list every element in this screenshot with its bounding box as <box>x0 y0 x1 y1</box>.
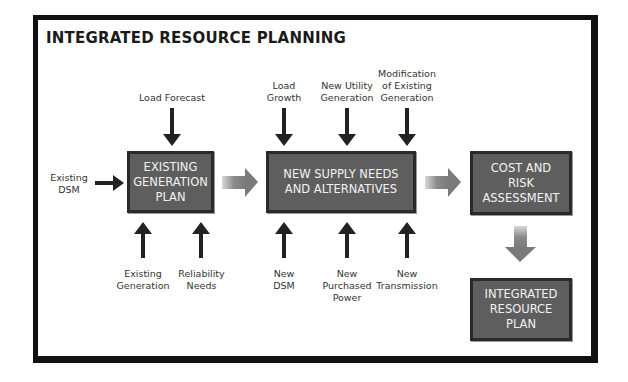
label-reliability-needs: Reliability Needs <box>174 268 229 292</box>
label-new-utility-generation: New Utility Generation <box>317 80 377 104</box>
new-supply-needs-box: NEW SUPPLY NEEDS AND ALTERNATIVES <box>266 151 416 213</box>
label-existing-generation: Existing Generation <box>113 268 173 292</box>
label-new-transmission: New Transmission <box>375 268 439 292</box>
label-new-purchased-power: New Purchased Power <box>317 268 377 304</box>
label-load-forecast: Load Forecast <box>132 92 212 104</box>
existing-generation-plan-box: EXISTING GENERATION PLAN <box>127 151 214 213</box>
label-load-growth: Load Growth <box>259 80 309 104</box>
arrow-right-icon <box>95 175 124 191</box>
label-modification-existing-generation: Modification of Existing Generation <box>375 68 439 104</box>
integrated-resource-plan-box: INTEGRATED RESOURCE PLAN <box>470 278 572 341</box>
cost-risk-assessment-box: COST AND RISK ASSESSMENT <box>470 151 572 215</box>
label-existing-dsm: Existing DSM <box>44 172 94 196</box>
arrow-down-icon <box>163 108 416 146</box>
label-new-dsm: New DSM <box>259 268 309 292</box>
arrow-up-icon <box>134 222 416 258</box>
